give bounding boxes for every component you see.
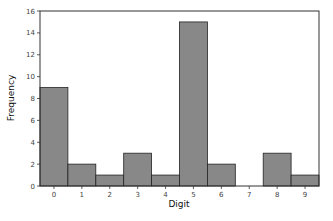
bar-digit-5 — [180, 22, 208, 186]
x-tick-label: 1 — [80, 191, 84, 199]
x-tick-label: 6 — [219, 191, 224, 199]
y-tick-label: 0 — [31, 183, 35, 191]
x-tick-label: 5 — [191, 191, 195, 199]
x-tick-label: 4 — [163, 191, 168, 199]
x-tick-label: 2 — [108, 191, 112, 199]
bar-digit-0 — [40, 88, 68, 186]
y-axis: 0246810121416 — [26, 8, 40, 191]
bars-group — [40, 22, 319, 186]
y-tick-label: 6 — [31, 117, 36, 125]
bar-digit-4 — [152, 175, 180, 186]
bar-digit-8 — [263, 153, 291, 186]
y-tick-label: 12 — [26, 51, 35, 59]
x-tick-label: 7 — [247, 191, 251, 199]
y-axis-title: Frequency — [6, 74, 16, 121]
y-tick-label: 8 — [31, 95, 35, 103]
x-tick-label: 9 — [303, 191, 307, 199]
y-tick-label: 4 — [31, 139, 36, 147]
y-tick-label: 14 — [26, 29, 35, 37]
bar-digit-6 — [207, 164, 235, 186]
bar-digit-3 — [124, 153, 152, 186]
x-tick-label: 8 — [275, 191, 279, 199]
bar-digit-2 — [96, 175, 124, 186]
y-tick-label: 2 — [31, 161, 35, 169]
bar-digit-1 — [68, 164, 96, 186]
x-tick-label: 3 — [135, 191, 139, 199]
bar-digit-9 — [291, 175, 319, 186]
y-tick-label: 10 — [26, 73, 35, 81]
x-axis: 0123456789 — [52, 186, 308, 199]
histogram-chart: 0246810121416 0123456789 Digit Frequency — [0, 0, 333, 221]
x-tick-label: 0 — [52, 191, 56, 199]
x-axis-title: Digit — [168, 199, 190, 209]
y-tick-label: 16 — [26, 8, 35, 16]
